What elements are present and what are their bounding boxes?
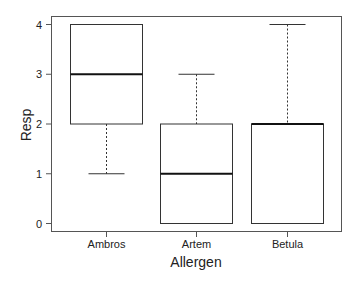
y-tick-label: 0 [36, 218, 42, 230]
y-tick-label: 4 [36, 19, 42, 31]
y-axis: 01234 [36, 19, 52, 230]
x-tick-label: Artem [182, 238, 211, 250]
x-axis: AmbrosArtemBetula [88, 232, 304, 251]
box-betula [252, 25, 324, 224]
y-axis-label: Resp [18, 108, 34, 141]
box-ambros [71, 25, 143, 174]
box-artem [161, 74, 233, 223]
y-tick-label: 3 [36, 68, 42, 80]
y-tick-label: 1 [36, 168, 42, 180]
x-axis-label: Allergen [170, 254, 221, 270]
box-series [71, 25, 324, 224]
x-tick-label: Ambros [88, 238, 126, 250]
iqr-box [252, 124, 324, 224]
y-tick-label: 2 [36, 118, 42, 130]
boxplot-chart: 01234 AmbrosArtemBetula Resp Allergen [0, 0, 354, 282]
x-tick-label: Betula [272, 238, 304, 250]
